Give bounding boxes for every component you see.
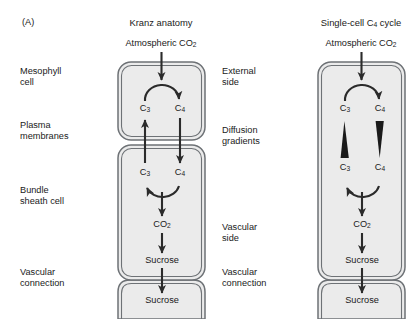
singlecell-panel-title: Single-cell C4 cycle: [321, 17, 401, 29]
node-singlecell-top-c4: C4: [375, 103, 385, 114]
kranz-panel-title: Kranz anatomy: [129, 17, 192, 28]
singlecell-input-text: Atmospheric CO: [325, 38, 392, 48]
node-singlecell-top-c3: C3: [340, 103, 350, 114]
singlecell-title-part2: cycle: [377, 17, 401, 28]
node-kranz-mesophyll-c3: C3: [140, 103, 150, 114]
singlecell-input-subscript: 2: [393, 41, 397, 48]
node-kranz-vascular-sucrose: Sucrose: [145, 295, 179, 306]
side-label-external-side: Externalside: [222, 66, 318, 88]
side-label-bundle-sheath-cell: Bundlesheath cell: [20, 185, 116, 207]
side-label-plasma-membranes: Plasmamembranes: [20, 120, 116, 142]
singlecell-title-part1: Single-cell C: [321, 17, 374, 28]
panel-letter: (A): [22, 17, 34, 28]
node-kranz-bs-c3: C3: [140, 167, 150, 178]
node-singlecell-bot-c3: C3: [340, 162, 350, 173]
node-kranz-bs-c4: C4: [175, 167, 185, 178]
node-kranz-sucrose: Sucrose: [145, 255, 179, 266]
side-label-vascular-connection-left: Vascularconnection: [20, 267, 116, 289]
kranz-input-text: Atmospheric CO: [125, 38, 192, 48]
node-singlecell-sucrose: Sucrose: [345, 255, 379, 266]
node-kranz-co2: CO2: [153, 219, 170, 230]
side-label-mesophyll-cell: Mesophyllcell: [20, 66, 116, 88]
kranz-input-subscript: 2: [193, 41, 197, 48]
kranz-input-label: Atmospheric CO2: [125, 38, 196, 49]
node-singlecell-bot-c4: C4: [375, 162, 385, 173]
side-label-vascular-connection-right: Vascularconnection: [222, 267, 318, 289]
node-kranz-mesophyll-c4: C4: [175, 103, 185, 114]
figure-panel-a: (A) Kranz anatomy Single-cell C4 cycle A…: [0, 0, 410, 319]
side-label-vascular-side: Vascularside: [222, 222, 318, 244]
node-singlecell-co2: CO2: [353, 219, 370, 230]
node-singlecell-vascular-sucrose: Sucrose: [345, 295, 379, 306]
side-label-diffusion-gradients: Diffusiongradients: [222, 125, 318, 147]
singlecell-input-label: Atmospheric CO2: [325, 38, 396, 49]
